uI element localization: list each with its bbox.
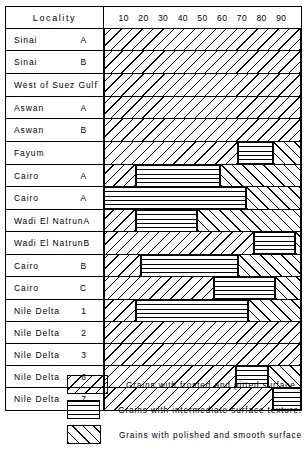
table-row: CairoA <box>6 165 301 187</box>
locality-group: West of Suez Gulf <box>6 74 301 97</box>
table-row: West of Suez Gulf <box>6 74 301 96</box>
legend-swatch-intermediate <box>67 400 100 419</box>
bar-segment-frosted <box>104 97 301 118</box>
locality-label-cell: CairoC <box>6 277 104 299</box>
legend-label: Grains with intermediate surface texture… <box>118 405 302 415</box>
legend-item: Grains with intermediate surface texture… <box>5 397 302 422</box>
bar-segment-frosted <box>104 322 301 343</box>
table-row: Wadi El NatrunA <box>6 210 301 232</box>
stacked-bar <box>104 255 301 276</box>
bar-segment-frosted <box>104 74 301 96</box>
bar-segment-intermediate <box>238 142 273 164</box>
axis-tick-30: 30 <box>158 13 168 23</box>
locality-index: 1 <box>81 306 103 316</box>
locality-index: A <box>80 171 103 181</box>
locality-index: A <box>80 35 103 45</box>
locality-label-cell: AswanB <box>6 119 104 141</box>
locality-name: Aswan <box>14 125 44 135</box>
stacked-bar <box>104 51 301 73</box>
axis-tick-60: 60 <box>217 13 227 23</box>
locality-name: Fayum <box>14 148 44 158</box>
locality-label-cell: Nile Delta2 <box>6 322 104 343</box>
stacked-bar <box>104 322 301 343</box>
locality-group: Wadi El NatrunAWadi El NatrunB <box>6 210 301 255</box>
locality-label-cell: Nile Delta3 <box>6 344 104 365</box>
bar-segment-intermediate <box>136 165 221 186</box>
locality-name: Nile Delta <box>14 328 60 338</box>
stacked-bar <box>104 29 301 50</box>
locality-index: A <box>83 216 104 226</box>
locality-index: C <box>80 283 103 293</box>
locality-name: Nile Delta <box>14 306 60 316</box>
table-row: Nile Delta3 <box>6 344 301 366</box>
sand-grain-surface-texture-figure: Locality 102030405060708090 SinaiASinaiB… <box>0 0 308 449</box>
locality-name: Wadi El Natrun <box>14 216 83 226</box>
bar-segment-frosted <box>104 142 238 164</box>
locality-name: Aswan <box>14 103 44 113</box>
bar-segment-frosted <box>104 165 136 186</box>
locality-header-cell: Locality <box>6 7 104 28</box>
stacked-bar <box>104 142 301 164</box>
locality-label-cell: Wadi El NatrunA <box>6 210 104 231</box>
axis-tick-20: 20 <box>138 13 148 23</box>
locality-label-cell: CairoB <box>6 255 104 276</box>
bar-segment-frosted <box>104 300 136 321</box>
bar-segment-polished <box>220 165 301 186</box>
axis-tick-40: 40 <box>178 13 188 23</box>
locality-label-cell: Wadi El NatrunB <box>6 232 104 254</box>
axis-tick-90: 90 <box>276 13 286 23</box>
stacked-bar <box>104 344 301 365</box>
locality-index: B <box>80 125 103 135</box>
stacked-bar <box>104 210 301 231</box>
locality-name: Cairo <box>14 283 39 293</box>
stacked-bar <box>104 187 301 209</box>
locality-name: Wadi El Natrun <box>14 238 83 248</box>
bar-segment-frosted <box>104 51 301 73</box>
locality-name: Nile Delta <box>14 350 60 360</box>
locality-group: AswanAAswanB <box>6 97 301 142</box>
bar-segment-intermediate <box>104 187 246 209</box>
bar-segment-frosted <box>104 29 301 50</box>
locality-index: 2 <box>81 328 103 338</box>
locality-label-cell: West of Suez Gulf <box>6 74 104 96</box>
bar-segment-polished <box>238 255 301 276</box>
axis-tick-80: 80 <box>256 13 266 23</box>
locality-label-cell: SinaiA <box>6 29 104 50</box>
locality-label-cell: CairoA <box>6 165 104 186</box>
locality-group: CairoACairoA <box>6 165 301 210</box>
axis-tick-10: 10 <box>119 13 129 23</box>
bar-segment-polished <box>246 187 301 209</box>
bar-segment-frosted <box>104 232 254 254</box>
table-row: AswanB <box>6 119 301 141</box>
stacked-bar <box>104 119 301 141</box>
bar-segment-intermediate <box>254 232 295 254</box>
locality-name: Sinai <box>14 35 37 45</box>
table-row: SinaiA <box>6 29 301 51</box>
table-row: SinaiB <box>6 51 301 73</box>
stacked-bar <box>104 300 301 321</box>
locality-index: A <box>80 103 103 113</box>
table-row: Fayum <box>6 142 301 164</box>
bar-segment-polished <box>197 210 301 231</box>
locality-name: Cairo <box>14 193 39 203</box>
legend-label: Grains with frosted and pitted surface . <box>126 380 302 390</box>
chart-table: Locality 102030405060708090 SinaiASinaiB… <box>5 6 302 411</box>
locality-label-cell: Nile Delta1 <box>6 300 104 321</box>
legend-label: Grains with polished and smooth surface <box>119 430 302 440</box>
bar-segment-frosted <box>104 255 141 276</box>
stacked-bar <box>104 74 301 96</box>
legend-swatch-frosted <box>67 375 108 394</box>
locality-index: B <box>83 238 104 248</box>
table-row: CairoC <box>6 277 301 299</box>
locality-name: West of Suez Gulf <box>14 80 98 90</box>
bar-segment-intermediate <box>136 210 197 231</box>
locality-index: A <box>80 193 103 203</box>
bar-segment-frosted <box>104 277 214 299</box>
locality-label-cell: AswanA <box>6 97 104 118</box>
locality-index: B <box>80 261 103 271</box>
stacked-bar <box>104 232 301 254</box>
legend: Grains with frosted and pitted surface .… <box>5 372 302 447</box>
locality-name: Cairo <box>14 261 39 271</box>
bar-segment-polished <box>273 142 301 164</box>
legend-item: Grains with frosted and pitted surface . <box>5 372 302 397</box>
